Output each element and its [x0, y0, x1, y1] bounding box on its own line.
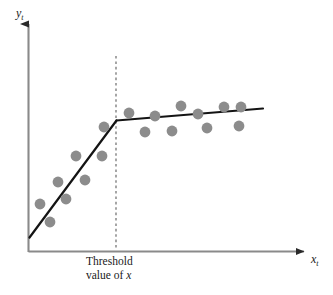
data-point	[97, 151, 108, 162]
chart-canvas	[0, 0, 333, 295]
threshold-caption-line2: value of x	[86, 268, 206, 282]
threshold-caption-line2-prefix: value of	[86, 269, 126, 281]
data-point	[219, 102, 230, 113]
data-point	[71, 151, 82, 162]
x-axis-label: xt	[311, 252, 319, 268]
data-point	[176, 101, 187, 112]
data-point	[234, 121, 245, 132]
threshold-caption-line1: Threshold	[86, 254, 206, 268]
regression-segment-left	[30, 121, 117, 238]
data-point	[236, 102, 247, 113]
piecewise-regression-chart: yt xt Threshold value of x	[0, 0, 333, 295]
data-point	[167, 126, 178, 137]
data-point	[35, 199, 46, 210]
data-point	[193, 109, 204, 120]
data-point	[80, 175, 91, 186]
data-point	[61, 194, 72, 205]
x-axis-label-subscript: t	[316, 259, 318, 268]
data-point	[99, 122, 110, 133]
threshold-caption-variable: x	[126, 269, 131, 281]
data-point	[202, 123, 213, 134]
threshold-caption: Threshold value of x	[86, 254, 206, 282]
y-axis-label-subscript: t	[21, 13, 23, 22]
data-point	[45, 217, 56, 228]
data-point	[53, 177, 64, 188]
y-axis-label: yt	[16, 6, 24, 22]
data-point	[124, 108, 135, 119]
data-point	[150, 111, 161, 122]
data-point	[140, 127, 151, 138]
